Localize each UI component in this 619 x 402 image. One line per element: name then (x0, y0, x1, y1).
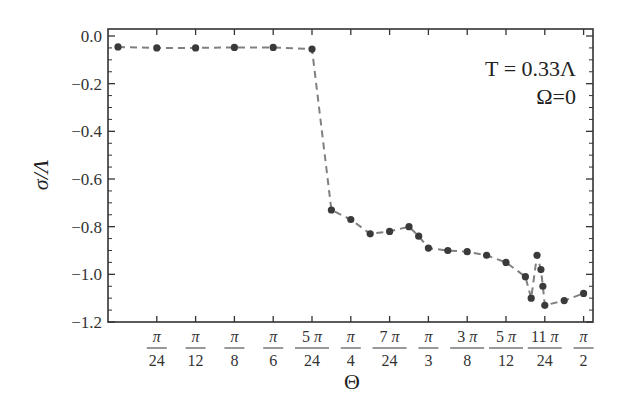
y-tick-label: −0.4 (71, 122, 102, 141)
data-point (153, 44, 160, 51)
x-tick-label-denominator: 24 (537, 352, 553, 369)
annotation-omega: Ω=0 (536, 84, 576, 109)
x-tick-label-numerator: π (347, 328, 356, 345)
data-point (561, 297, 568, 304)
data-point (528, 295, 535, 302)
x-tick-label-numerator: π (580, 328, 589, 345)
data-point (483, 252, 490, 259)
data-point (347, 216, 354, 223)
x-tick-label-numerator: 7 π (380, 328, 401, 345)
pi-symbol: π (550, 328, 559, 345)
data-point (539, 283, 546, 290)
data-point (386, 228, 393, 235)
data-point (192, 44, 199, 51)
data-point (533, 252, 540, 259)
data-point (114, 43, 121, 50)
data-point (444, 247, 451, 254)
x-tick-label-denominator: 12 (188, 352, 204, 369)
data-point (231, 44, 238, 51)
x-tick-label-denominator: 6 (269, 352, 277, 369)
x-tick-label-numerator: π (153, 328, 162, 345)
chart: 0.0−0.2−0.4−0.6−0.8−1.0−1.2 π24π12π8π65 … (0, 0, 619, 402)
x-axis-title: Θ (344, 369, 360, 394)
data-point (328, 206, 335, 213)
x-tick-label-numerator: π (424, 328, 433, 345)
numerator-coefficient: 7 (380, 328, 392, 345)
x-tick-label-denominator: 3 (424, 352, 432, 369)
series-group (114, 43, 587, 309)
x-tick-label-denominator: 2 (580, 352, 588, 369)
x-tick-label-denominator: 4 (347, 352, 355, 369)
x-tick-label-numerator: π (269, 328, 278, 345)
x-tick-label-denominator: 8 (463, 352, 471, 369)
y-tick-label: 0.0 (81, 27, 102, 46)
y-tick-label: −1.2 (71, 313, 102, 332)
data-point (367, 230, 374, 237)
y-tick-label: −0.8 (71, 218, 102, 237)
numerator-coefficient: 11 (531, 328, 550, 345)
x-tick-label-denominator: 8 (230, 352, 238, 369)
x-tick-label-numerator: 5 π (496, 328, 517, 345)
data-point (537, 266, 544, 273)
x-tick-label-denominator: 24 (149, 352, 165, 369)
data-point (522, 273, 529, 280)
pi-symbol: π (314, 328, 323, 345)
data-point (415, 233, 422, 240)
x-tick-label-denominator: 12 (498, 352, 514, 369)
y-tick-label: −1.0 (71, 265, 102, 284)
pi-symbol: π (508, 328, 517, 345)
numerator-coefficient: 5 (496, 328, 508, 345)
numerator-coefficient: 5 (302, 328, 314, 345)
y-tick-label: −0.2 (71, 75, 102, 94)
x-tick-label-denominator: 24 (304, 352, 320, 369)
data-point (541, 302, 548, 309)
series-line (118, 47, 584, 305)
x-tick-label-numerator: 3 π (457, 328, 478, 345)
data-point (425, 245, 432, 252)
data-point (308, 46, 315, 53)
pi-symbol: π (392, 328, 401, 345)
pi-symbol: π (469, 328, 478, 345)
data-point (502, 259, 509, 266)
x-tick-label-numerator: π (230, 328, 239, 345)
x-tick-label-numerator: 11 π (531, 328, 559, 345)
x-tick-label-denominator: 24 (382, 352, 398, 369)
data-point (270, 44, 277, 51)
annotation-temperature: T = 0.33Λ (485, 56, 576, 81)
y-axis-title: σ/Λ (28, 159, 53, 190)
numerator-coefficient: 3 (457, 328, 469, 345)
y-tick-label: −0.6 (71, 170, 102, 189)
x-tick-label-numerator: π (192, 328, 201, 345)
x-tick-label-numerator: 5 π (302, 328, 323, 345)
data-point (405, 223, 412, 230)
data-point (464, 248, 471, 255)
data-point (580, 290, 587, 297)
